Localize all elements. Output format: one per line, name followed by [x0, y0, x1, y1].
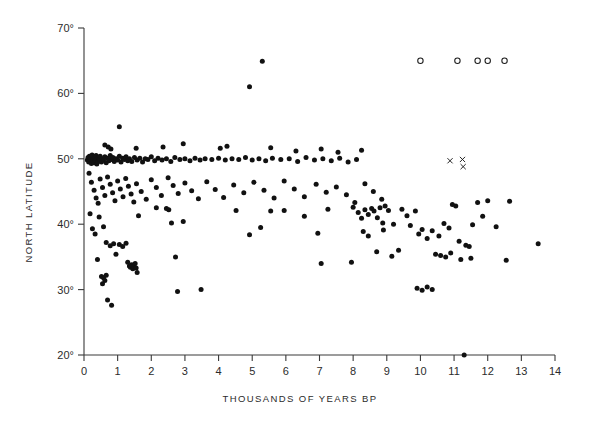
data-point [247, 232, 252, 237]
data-point [160, 158, 165, 163]
data-point [287, 156, 292, 161]
data-point [425, 236, 430, 241]
data-point [468, 256, 473, 261]
x-tick-label: 7 [316, 365, 322, 377]
x-tick-label: 0 [81, 365, 87, 377]
data-point-open [502, 58, 507, 63]
data-point [458, 257, 463, 262]
data-point [415, 286, 420, 291]
data-points-layer [85, 58, 541, 358]
data-point [366, 233, 371, 238]
data-point [268, 209, 273, 214]
data-point [295, 159, 300, 164]
data-point [125, 260, 130, 265]
data-point [380, 220, 385, 225]
data-point [319, 261, 324, 266]
data-point [93, 232, 98, 237]
data-point [247, 84, 252, 89]
data-point [111, 241, 116, 246]
data-point [241, 190, 246, 195]
data-point [97, 215, 102, 220]
data-point [133, 261, 138, 266]
data-point [113, 252, 118, 257]
data-point [485, 198, 490, 203]
data-point [494, 224, 499, 229]
data-point [399, 207, 404, 212]
data-point [457, 239, 462, 244]
data-point [101, 224, 106, 229]
data-point [480, 214, 485, 219]
data-point-open [418, 58, 423, 63]
data-point [261, 188, 266, 193]
data-point [189, 188, 194, 193]
data-point [371, 189, 376, 194]
data-point [104, 240, 109, 245]
data-point [108, 146, 113, 151]
data-point [433, 252, 438, 257]
x-axis-title: THOUSANDS OF YEARS BP [223, 393, 378, 404]
data-point [304, 155, 309, 160]
x-tick-label: 14 [549, 365, 561, 377]
data-point [236, 157, 241, 162]
data-point [413, 209, 418, 214]
y-tick-label: 60° [57, 87, 74, 99]
data-point [139, 189, 144, 194]
data-point [123, 176, 128, 181]
data-point [89, 180, 94, 185]
data-point [149, 154, 154, 159]
data-point [129, 192, 134, 197]
y-tick-label: 70° [57, 22, 74, 34]
data-point [159, 193, 164, 198]
data-point [302, 214, 307, 219]
data-point [354, 157, 359, 162]
data-point [94, 196, 99, 201]
data-point [386, 208, 391, 213]
data-point [199, 287, 204, 292]
data-point [124, 241, 129, 246]
data-point [92, 188, 97, 193]
data-point [136, 213, 141, 218]
series-open-circles [418, 58, 508, 63]
data-point [121, 194, 126, 199]
data-point [336, 150, 341, 155]
data-point [110, 190, 115, 195]
data-point [100, 281, 105, 286]
data-point [149, 177, 154, 182]
data-point [181, 219, 186, 224]
data-point [352, 200, 357, 205]
y-tick-label: 30° [57, 284, 74, 296]
data-point [462, 353, 467, 358]
x-axis-ticks: 01234567891011121314 [81, 355, 561, 377]
data-point-open [475, 58, 480, 63]
x-tick-label: 4 [216, 365, 222, 377]
data-point [436, 233, 441, 238]
data-point [416, 232, 421, 237]
data-point [379, 197, 384, 202]
scatter-plot-figure: 20°30°40°50°60°70° 01234567891011121314 … [0, 0, 590, 426]
data-point [256, 156, 261, 161]
y-tick-label: 20° [57, 349, 74, 361]
data-point [404, 213, 409, 218]
data-point [362, 207, 367, 212]
data-point [312, 158, 317, 163]
data-point [104, 273, 109, 278]
data-point [231, 182, 236, 187]
data-point [361, 229, 366, 234]
data-point [372, 209, 377, 214]
data-point [453, 203, 458, 208]
data-point [378, 205, 383, 210]
data-point [181, 141, 186, 146]
data-point [196, 196, 201, 201]
data-point [346, 160, 351, 165]
data-point [270, 156, 275, 161]
data-point [420, 288, 425, 293]
data-point [430, 228, 435, 233]
data-point [408, 223, 413, 228]
data-point [109, 303, 114, 308]
x-tick-label: 1 [115, 365, 121, 377]
data-point [359, 148, 364, 153]
data-point [198, 158, 203, 163]
data-point [507, 199, 512, 204]
data-point [282, 179, 287, 184]
data-point [258, 225, 263, 230]
